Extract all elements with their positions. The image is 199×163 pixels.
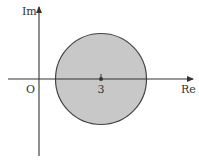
center-label: 3 bbox=[98, 83, 105, 96]
complex-plane-diagram: Im Re O 3 bbox=[0, 0, 199, 163]
imaginary-axis-label: Im bbox=[22, 5, 37, 18]
center-point bbox=[99, 77, 103, 81]
real-axis-label: Re bbox=[181, 83, 196, 96]
origin-label: O bbox=[26, 83, 35, 96]
